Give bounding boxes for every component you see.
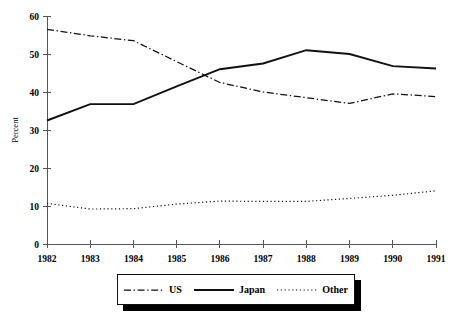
y-tick-label: 30 [30, 126, 40, 136]
legend-swatch-us [124, 285, 164, 295]
legend-item-japan[interactable]: Japan [194, 284, 265, 295]
legend-swatch-japan [194, 285, 234, 295]
series-line-other [47, 191, 436, 209]
y-tick-label: 60 [30, 12, 40, 22]
x-tick-label: 1987 [254, 254, 273, 264]
y-axis-tick-labels: 0102030405060 [30, 12, 40, 250]
y-tick-label: 20 [30, 164, 40, 174]
legend-label-japan: Japan [239, 284, 265, 295]
x-tick-label: 1982 [38, 254, 57, 264]
x-axis-tick-labels: 1982198319841985198619871988198919901991 [38, 254, 446, 264]
x-tick-label: 1990 [383, 254, 402, 264]
x-tick-label: 1989 [340, 254, 359, 264]
y-tick-label: 40 [30, 88, 40, 98]
legend-swatch-other [277, 285, 317, 295]
y-tick-label: 0 [34, 240, 39, 250]
x-tick-label: 1986 [210, 254, 229, 264]
legend-label-other: Other [322, 284, 348, 295]
series-line-japan [47, 50, 436, 120]
legend-label-us: US [169, 284, 182, 295]
x-tick-label: 1985 [167, 254, 186, 264]
x-tick-label: 1984 [124, 254, 143, 264]
y-axis-title: Percent [10, 117, 20, 143]
x-tick-label: 1991 [427, 254, 446, 264]
y-tick-label: 10 [30, 202, 40, 212]
series-group [47, 29, 436, 209]
x-tick-label: 1983 [81, 254, 100, 264]
y-tick-label: 50 [30, 50, 40, 60]
legend-item-other[interactable]: Other [277, 284, 348, 295]
x-tick-label: 1988 [297, 254, 316, 264]
chart-legend: US Japan Other [117, 274, 355, 305]
legend-item-us[interactable]: US [124, 284, 182, 295]
line-chart: 0102030405060 19821983198419851986198719… [0, 0, 454, 324]
